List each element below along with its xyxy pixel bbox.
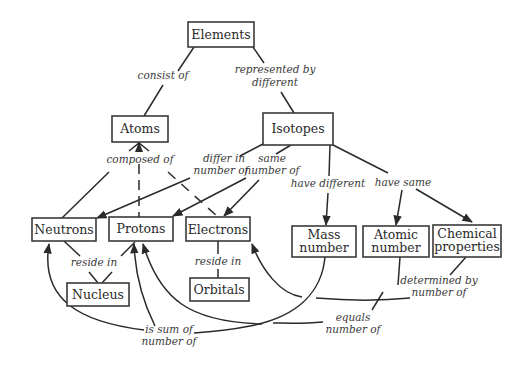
link-labels: consist of represented by different comp… — [71, 63, 479, 347]
svg-text:Atoms: Atoms — [119, 121, 160, 136]
edge-same-chemical — [416, 189, 472, 222]
label-equals-1: equals — [336, 311, 371, 323]
edge-isotopes-mass-a — [329, 145, 330, 176]
svg-text:Orbitals: Orbitals — [193, 282, 244, 297]
concept-map: consist of represented by different comp… — [0, 0, 529, 370]
node-atoms: Atoms — [112, 116, 168, 142]
node-neutrons: Neutrons — [32, 218, 96, 241]
svg-text:properties: properties — [434, 239, 500, 254]
label-same-2: number of — [245, 164, 302, 176]
edge-elements-atoms — [178, 47, 194, 71]
edge-protons-reside — [121, 242, 135, 256]
edge-same-atomic — [396, 190, 402, 225]
edge-equals-protons — [273, 322, 323, 323]
label-differ-in-1: differ in — [203, 152, 245, 164]
svg-text:Nucleus: Nucleus — [72, 287, 124, 302]
svg-text:Electrons: Electrons — [188, 222, 249, 237]
edge-atomic-equals-b — [372, 292, 383, 310]
label-have-different: have different — [291, 177, 366, 189]
edge-atoms-neutrons — [62, 172, 109, 218]
edge-isotopes-mass-b — [326, 193, 328, 225]
label-determined-by-2: number of — [412, 286, 469, 298]
label-same-1: same — [258, 152, 286, 164]
label-represented-by-2: different — [252, 76, 299, 88]
edge-sum-protons — [134, 244, 155, 326]
svg-text:Elements: Elements — [191, 27, 250, 42]
label-reside-in-nucleus: reside in — [71, 256, 118, 268]
label-represented-by-1: represented by — [235, 63, 317, 75]
edge-elements-atoms-2 — [144, 85, 163, 116]
edge-reside-nucleus-r — [102, 272, 112, 283]
node-atomic-number: Atomic number — [363, 226, 429, 257]
label-reside-in-orbitals: reside in — [195, 255, 242, 267]
edge-isotopes-neutrons — [97, 178, 190, 218]
node-orbitals: Orbitals — [190, 278, 249, 301]
label-equals-2: number of — [326, 323, 383, 335]
edge-neutrons-reside — [64, 241, 80, 256]
edge-determined-electrons — [316, 298, 410, 300]
node-electrons: Electrons — [186, 217, 250, 241]
edge-isotopes-electrons — [224, 180, 259, 216]
node-elements: Elements — [188, 22, 254, 47]
label-is-sum-1: is sum of — [145, 323, 195, 335]
node-isotopes: Isotopes — [263, 113, 333, 145]
edge-elements-isotopes — [253, 47, 264, 63]
node-mass-number: Mass number — [292, 226, 356, 257]
svg-text:number: number — [299, 240, 348, 255]
svg-text:Neutrons: Neutrons — [34, 222, 93, 237]
edge-chem-determined — [450, 257, 466, 275]
node-chemical-properties: Chemical properties — [433, 225, 501, 257]
edge-isotopes-same — [333, 145, 388, 173]
label-composed-of: composed of — [106, 153, 175, 165]
svg-text:Protons: Protons — [117, 221, 166, 236]
label-is-sum-2: number of — [142, 335, 199, 347]
label-determined-by-1: determined by — [400, 274, 478, 286]
node-nucleus: Nucleus — [67, 283, 129, 306]
label-differ-in-2: number of — [194, 164, 251, 176]
svg-text:number: number — [371, 240, 420, 255]
svg-text:Isotopes: Isotopes — [271, 121, 324, 136]
label-have-same: have same — [375, 176, 431, 188]
node-protons: Protons — [109, 217, 173, 241]
edge-reside-nucleus-l — [89, 272, 98, 283]
edge-atoms-electrons — [168, 172, 218, 217]
edge-elements-isotopes-2 — [281, 92, 294, 113]
label-consist-of: consist of — [138, 69, 191, 81]
